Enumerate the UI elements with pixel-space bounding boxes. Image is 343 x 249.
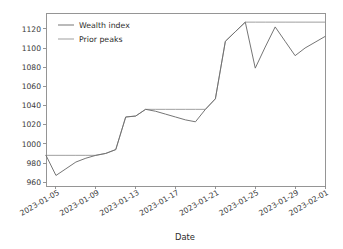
legend-label-prior-peaks: Prior peaks	[79, 35, 123, 44]
y-axis: 9609801000102010401060108011001120	[22, 25, 46, 187]
y-tick-label: 1100	[22, 44, 41, 53]
y-tick-label: 1000	[22, 140, 41, 149]
y-tick-label: 1020	[22, 120, 41, 129]
series-line-wealth-index	[46, 22, 325, 175]
y-tick-label: 980	[27, 159, 42, 168]
y-tick-label: 960	[27, 178, 42, 187]
line-chart: 9609801000102010401060108011001120 2023-…	[0, 0, 343, 249]
series-group	[46, 22, 325, 175]
y-tick-label: 1060	[22, 82, 41, 91]
legend: Wealth index Prior peaks	[58, 21, 130, 44]
chart-figure: 9609801000102010401060108011001120 2023-…	[0, 0, 343, 249]
y-tick-label: 1120	[22, 25, 41, 34]
y-tick-label: 1040	[22, 101, 41, 110]
x-tick-label: 2023-01-05	[18, 188, 61, 218]
y-tick-label: 1080	[22, 63, 41, 72]
x-tick-label: 2023-01-25	[218, 188, 261, 218]
legend-label-wealth-index: Wealth index	[79, 21, 130, 30]
x-axis-label: Date	[175, 232, 195, 242]
x-tick-label: 2023-01-09	[58, 188, 101, 218]
x-tick-label: 2023-01-17	[138, 188, 181, 218]
x-tick-label: 2023-01-21	[178, 188, 221, 218]
x-axis: 2023-01-052023-01-092023-01-132023-01-17…	[18, 186, 330, 218]
x-tick-label: 2023-01-13	[98, 188, 141, 218]
